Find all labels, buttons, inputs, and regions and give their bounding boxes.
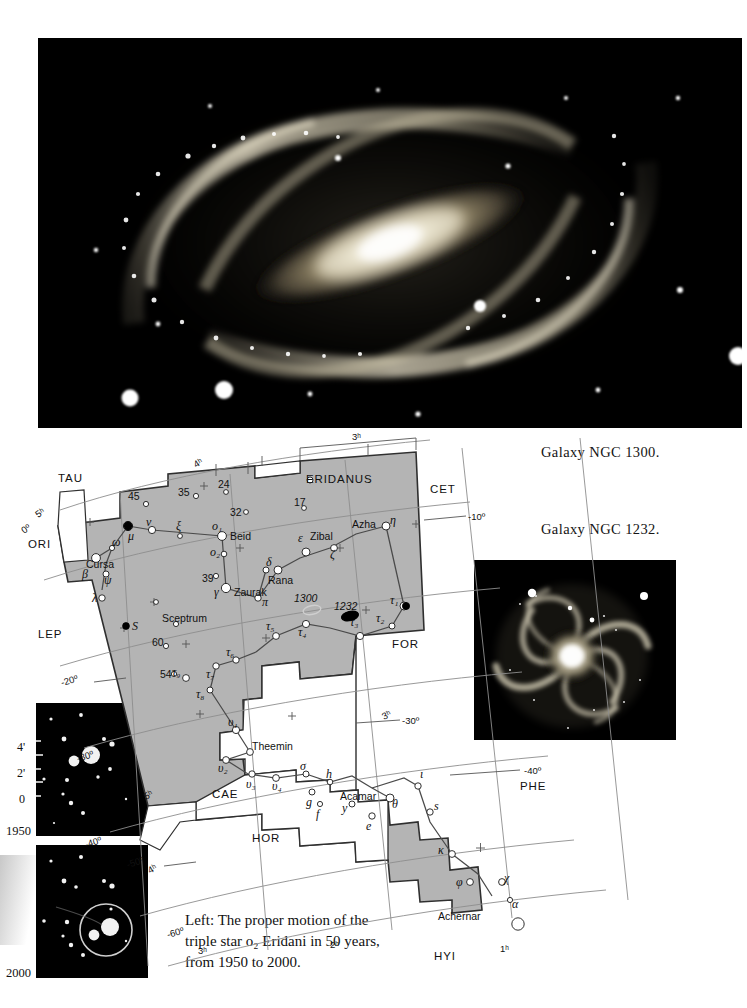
label-o1: o₁ (212, 519, 222, 533)
star-gamma (221, 583, 230, 592)
label-zibal: Zibal (310, 530, 333, 542)
star-lambda (99, 595, 105, 601)
star-tau8 (207, 687, 213, 693)
ra-pointer-50deg (164, 862, 196, 866)
star-phi (467, 879, 474, 886)
label-theta: θ (392, 797, 398, 811)
label-ori: ORI (28, 538, 51, 550)
label-S: S (132, 619, 138, 633)
label-45: 45 (128, 490, 140, 502)
star-tau2 (389, 623, 395, 629)
label-cursa: Cursa (86, 558, 114, 570)
label-delta: δ (266, 555, 272, 569)
star-f (317, 801, 322, 806)
dec-label-30: -30º (402, 715, 420, 726)
label-35: 35 (178, 486, 190, 498)
star-eta (382, 522, 390, 530)
label-tau6: τ₆ (226, 645, 234, 659)
star-iota (415, 783, 421, 789)
star-35 (193, 493, 198, 498)
label-iota: ι (420, 767, 423, 781)
label-ups2: υ₂ (218, 761, 228, 775)
label-eta: η (390, 513, 396, 527)
dec-label-60: -60º (166, 924, 186, 939)
ra-label-3h-top: 3ʰ (352, 431, 361, 442)
ra-label-4h-top: 4ʰ (191, 455, 205, 469)
label-chi: χ (503, 871, 510, 885)
label-cae: CAE (212, 788, 238, 800)
label-alpha: α (512, 897, 519, 911)
star-39 (213, 573, 218, 578)
label-lep: LEP (38, 628, 62, 640)
ra-label-1h-base: 1ʰ (500, 943, 509, 954)
label-tau5: τ₅ (266, 619, 274, 633)
label-cet: CET (430, 483, 456, 495)
label-achernar: Achernar (438, 910, 481, 922)
star-achernar (512, 918, 524, 930)
label-tau4: τ₄ (298, 625, 306, 639)
star-epsilon (302, 548, 310, 556)
label-tau3: τ₃ (350, 615, 358, 629)
label-tau: TAU (58, 472, 83, 484)
ra-pointer-30deg (356, 720, 400, 723)
star-chart: .cf{fill:#b4b4b4;stroke:#2f2f2f;stroke-w… (0, 430, 680, 990)
star-45 (143, 501, 148, 506)
label-azha: Azha (352, 518, 376, 530)
star-chart-svg: .cf{fill:#b4b4b4;stroke:#2f2f2f;stroke-w… (0, 430, 680, 990)
label-lambda: λ (91, 591, 97, 605)
label-ngc1232: 1232 (334, 600, 358, 612)
galaxy-photo-ngc1300 (38, 38, 742, 428)
star-xi (178, 534, 183, 539)
star-tau1 (402, 602, 409, 609)
label-nu: ν (146, 515, 152, 529)
dec-label-40: -40º (524, 765, 542, 776)
star-delta (274, 566, 282, 574)
dec-label-40b: -40º (83, 834, 103, 850)
label-tau7: τ₇ (206, 667, 214, 681)
label-ups3: υ₃ (246, 777, 256, 791)
ra-label-5h-top: 5ʰ (33, 505, 47, 519)
label-epsilon: ε (298, 531, 303, 545)
label-ups4: υ₄ (272, 779, 282, 793)
star-o2 (221, 551, 227, 557)
dec-label-20: -20º (60, 672, 80, 687)
label-y: y (341, 801, 348, 815)
label-sceptrum: Sceptrum (162, 612, 207, 624)
star-tau5 (273, 633, 280, 640)
ra-label-0deg: 0º (19, 521, 33, 535)
label-psi: ψ (104, 573, 112, 587)
label-gamma: γ (214, 585, 219, 599)
ra-label-4h-bot: 4ʰ (146, 862, 160, 876)
dec-label-30b: -30º (75, 748, 95, 764)
label-tau8: τ₈ (196, 687, 204, 701)
label-xi: ξ (176, 519, 182, 533)
label-g: g (306, 795, 312, 809)
label-beta: β (81, 567, 88, 581)
label-54: 54 (160, 668, 172, 680)
label-beid: Beid (230, 530, 251, 542)
label-hyi: HYI (434, 950, 456, 962)
label-17: 17 (294, 496, 306, 508)
ra-label-2h-base: 2ʰ (330, 939, 339, 950)
label-mu: μ (127, 529, 134, 543)
label-ups1: υ₁ (228, 715, 238, 729)
cutout-ori (58, 490, 88, 562)
star-24 (224, 490, 229, 495)
star-S (123, 623, 130, 630)
label-tau1: τ₁ (390, 593, 398, 607)
ngc1300-image (38, 38, 742, 428)
label-tau9: τ₉ (172, 665, 180, 679)
label-e: e (366, 819, 372, 833)
label-eridanus: ERIDANUS (306, 473, 373, 485)
star-field-lep (154, 600, 159, 605)
cutout-cae (140, 802, 196, 850)
star-tau9 (183, 675, 190, 682)
star-60 (163, 643, 168, 648)
ra-label-3h-mid: 3ʰ (380, 708, 393, 722)
label-ngc1300: 1300 (294, 592, 318, 604)
label-h: h (326, 767, 332, 781)
dec-label-10: -10º (468, 511, 486, 522)
star-kappa (449, 851, 456, 858)
label-32: 32 (230, 506, 242, 518)
ra-pointer-40deg (450, 770, 520, 775)
